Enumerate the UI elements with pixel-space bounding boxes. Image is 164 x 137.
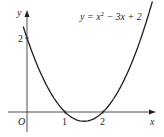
x-axis-arrow-icon (149, 110, 156, 115)
equation-suffix: − 3x + 2 (104, 11, 142, 22)
parabola-chart: y x O 1 2 2 y = x2 − 3x + 2 (0, 0, 164, 137)
equation-prefix: y = x (79, 11, 101, 22)
y-axis-label: y (16, 7, 22, 18)
x-tick-label-1: 1 (62, 116, 67, 127)
origin-label: O (18, 116, 25, 127)
y-tick-label-2: 2 (18, 33, 23, 44)
y-axis-arrow-icon (25, 10, 30, 17)
equation-annotation: y = x2 − 3x + 2 (79, 10, 142, 22)
x-axis-label: x (149, 116, 155, 127)
x-tick-label-2: 2 (100, 116, 105, 127)
